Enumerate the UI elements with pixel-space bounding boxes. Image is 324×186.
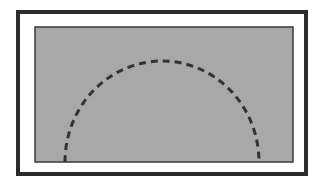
gray-area-rectangle	[35, 27, 293, 162]
diagram-canvas	[0, 0, 324, 186]
